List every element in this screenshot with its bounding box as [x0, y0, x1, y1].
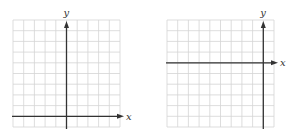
x-axis-label: x: [280, 57, 286, 68]
grid-svg-right: yx: [0, 0, 295, 138]
y-axis-label: y: [259, 7, 266, 18]
grid-lines: [167, 20, 274, 127]
y-axis-arrow-icon: [261, 21, 266, 28]
coordinate-grid-right: yx: [0, 0, 295, 138]
x-axis-arrow-icon: [271, 60, 278, 65]
